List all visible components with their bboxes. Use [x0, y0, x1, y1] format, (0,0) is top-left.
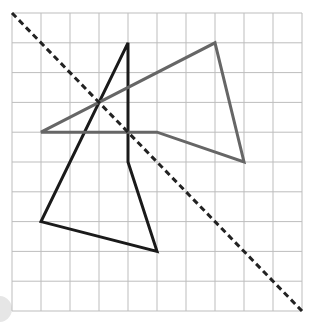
reflection-diagram: [0, 0, 309, 323]
